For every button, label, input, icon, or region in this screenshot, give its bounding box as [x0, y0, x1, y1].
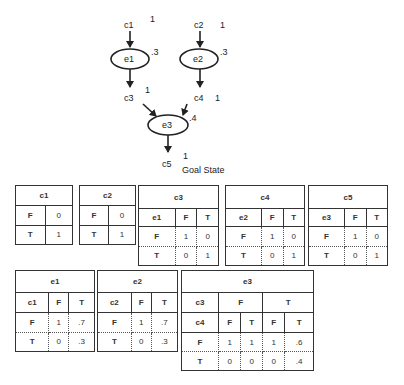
table-cell: .7 [151, 313, 177, 333]
table-title: e2 [98, 271, 178, 293]
node-e1-label: e1 [124, 54, 134, 64]
table-cell: 1 [345, 227, 366, 247]
node-c4-prob: 1 [215, 93, 220, 103]
arrow-c3-e3 [143, 104, 156, 116]
header-cell: c2 [98, 293, 132, 313]
row-label: F [182, 333, 219, 352]
node-c2-label: c2 [194, 20, 204, 30]
table-cell: 1 [263, 333, 285, 352]
table-cell: .6 [285, 333, 314, 352]
table-cell: 1 [219, 333, 241, 352]
table-cell: 1 [197, 246, 219, 266]
node-e2-prob: .3 [220, 47, 228, 57]
table-cell: 1 [283, 246, 304, 266]
goal-state-label: Goal State [182, 165, 225, 175]
row-label: T [98, 332, 132, 352]
header-cell: F [131, 293, 151, 313]
table-cell: 0 [241, 352, 263, 371]
header-cell: F [49, 293, 69, 313]
header-cell: F [262, 209, 283, 227]
table-cell: 1 [241, 333, 263, 352]
row-label: F [16, 206, 46, 226]
row-label: F [226, 227, 262, 247]
table-title: c3 [139, 186, 219, 209]
row-label: T [309, 246, 345, 266]
header-cell: e2 [226, 209, 262, 227]
header-cell: F [175, 209, 197, 227]
row-label: T [16, 225, 46, 245]
row-label: T [139, 246, 176, 266]
cpt-table-c5: c5 e3 F T F 1 0 T 0 1 [308, 185, 388, 266]
causal-network-diagram: c1 1 e1 .3 c3 1 c2 1 e2 .3 c4 1 e3 .4 c5… [0, 0, 404, 185]
node-e2-label: e2 [193, 54, 203, 64]
table-cell: 1 [45, 225, 72, 245]
table-cell: 0 [131, 332, 151, 352]
header-cell: c4 [182, 313, 219, 333]
node-c3-prob: 1 [145, 85, 150, 95]
row-label: F [80, 206, 109, 226]
cpt-table-c4: c4 e2 F T F 1 0 T 0 1 [225, 185, 305, 266]
header-cell: F [263, 313, 285, 333]
row-label: T [16, 332, 49, 352]
node-e3-prob: .4 [189, 113, 197, 123]
header-cell: T [283, 209, 304, 227]
row-label: T [182, 352, 219, 371]
header-cell: T [285, 313, 314, 333]
row-label: T [80, 225, 109, 245]
table-title: e3 [182, 271, 314, 293]
header-cell: e3 [309, 209, 345, 227]
header-cell: T [263, 293, 314, 313]
table-title: c2 [80, 186, 136, 206]
node-e1-prob: .3 [151, 47, 159, 57]
header-cell: F [219, 313, 241, 333]
table-cell: 1 [49, 313, 69, 333]
table-cell: .3 [69, 332, 95, 352]
header-cell: F [219, 293, 263, 313]
header-cell: T [366, 209, 387, 227]
node-c5-prob: 1 [183, 151, 188, 161]
table-cell: 0 [263, 352, 285, 371]
table-cell: 0 [262, 246, 283, 266]
table-cell: 1 [366, 246, 387, 266]
table-cell: 0 [45, 206, 72, 226]
node-c3-label: c3 [124, 93, 134, 103]
table-cell: 0 [197, 227, 219, 247]
table-cell: 1 [109, 225, 136, 245]
header-cell: T [69, 293, 95, 313]
cpt-table-c1: c1 F0 T1 [15, 185, 73, 245]
node-c1-label: c1 [124, 20, 134, 30]
header-cell: F [345, 209, 366, 227]
row-label: F [98, 313, 132, 333]
table-title: e1 [16, 271, 95, 293]
node-e3-label: e3 [162, 120, 172, 130]
header-cell: T [151, 293, 177, 313]
header-cell: T [197, 209, 219, 227]
cpt-table-c2: c2 F0 T1 [79, 185, 136, 245]
header-cell: c1 [16, 293, 49, 313]
node-c2-prob: 1 [220, 20, 225, 30]
table-cell: 0 [345, 246, 366, 266]
row-label: F [16, 313, 49, 333]
table-cell: 0 [283, 227, 304, 247]
row-label: F [139, 227, 176, 247]
table-title: c5 [309, 186, 388, 209]
cpt-table-c3: c3 e1 F T F 1 0 T 0 1 [138, 185, 219, 266]
table-cell: 0 [175, 246, 197, 266]
cpt-table-e2: e2 c2 F T F 1 .7 T 0 .3 [97, 270, 178, 352]
row-label: T [226, 246, 262, 266]
table-title: c4 [226, 186, 305, 209]
table-cell: 0 [109, 206, 136, 226]
table-cell: 0 [49, 332, 69, 352]
table-cell: 1 [175, 227, 197, 247]
table-cell: .4 [285, 352, 314, 371]
table-cell: .7 [69, 313, 95, 333]
header-cell: e1 [139, 209, 176, 227]
row-label: F [309, 227, 345, 247]
table-cell: 1 [131, 313, 151, 333]
table-title: c1 [16, 186, 73, 206]
table-cell: 0 [219, 352, 241, 371]
table-cell: 0 [366, 227, 387, 247]
header-cell: T [241, 313, 263, 333]
cpt-table-e1: e1 c1 F T F 1 .7 T 0 .3 [15, 270, 95, 352]
node-c5-label: c5 [162, 159, 172, 169]
